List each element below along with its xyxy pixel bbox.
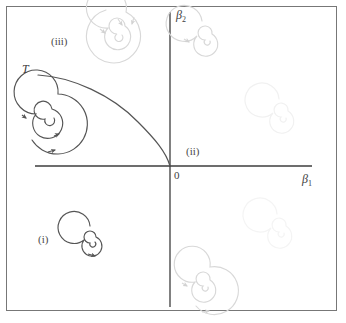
region-label-one: (i): [38, 234, 48, 245]
axes-group: [35, 12, 312, 307]
origin-label: 0: [174, 170, 180, 181]
region-label-three: (iii): [51, 36, 68, 47]
phase-portrait-very-faint-spiral-right: [245, 83, 294, 133]
phase-portrait-dark-spiral-lower-left: [58, 211, 102, 256]
phase-portrait-faint-spiral-top-left: [86, 0, 140, 63]
y-axis-label-subscript: 2: [182, 15, 186, 24]
y-axis-label: β2: [176, 9, 186, 24]
phase-portrait-faint-spiral-lower-right: [174, 246, 238, 314]
phase-portrait-very-faint-spiral-lower-right: [243, 198, 292, 248]
phase-portrait-faint-spiral-upper-right: [166, 5, 218, 56]
bifurcation-diagram-figure: T (iii) (ii) (i) 0 β2 β1: [0, 0, 346, 323]
region-label-two: (ii): [186, 146, 199, 157]
diagram-canvas: [0, 0, 346, 323]
x-axis-label-subscript: 1: [308, 179, 312, 188]
curve-label-T: T: [22, 63, 29, 75]
x-axis-label: β1: [302, 173, 312, 188]
